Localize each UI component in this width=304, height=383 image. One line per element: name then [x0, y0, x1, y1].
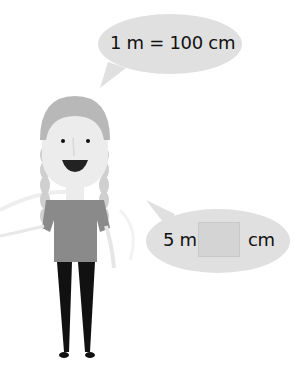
- bottom-bubble-suffix: cm: [248, 229, 275, 250]
- illustration-scene: 1 m = 100 cm 5 m = cm: [0, 0, 304, 383]
- girl-illustration: [0, 0, 304, 383]
- top-bubble-text: 1 m = 100 cm: [110, 32, 235, 53]
- answer-input-box[interactable]: [198, 222, 240, 257]
- girl: [0, 96, 114, 358]
